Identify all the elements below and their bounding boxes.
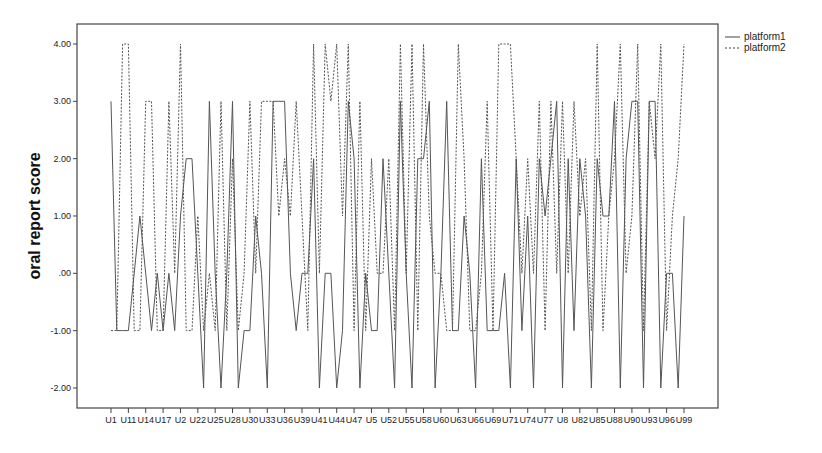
x-tick-label: U96	[658, 415, 675, 425]
x-tick-label: U99	[676, 415, 693, 425]
x-tick-label: U77	[537, 415, 554, 425]
x-tick-label: U1	[105, 415, 117, 425]
x-tick-label: U58	[415, 415, 432, 425]
x-tick-label: U63	[450, 415, 467, 425]
x-tick-label: U11	[120, 415, 136, 425]
x-tick-label: U2	[175, 415, 187, 425]
x-tick-label: U33	[259, 415, 276, 425]
y-tick-label: 2.00	[53, 154, 71, 164]
x-tick-label: U5	[366, 415, 378, 425]
x-tick-label: U39	[294, 415, 311, 425]
x-tick-label: U69	[485, 415, 502, 425]
x-tick-label: U82	[572, 415, 589, 425]
x-tick-label: U60	[433, 415, 450, 425]
y-tick-label: .00	[58, 268, 71, 278]
x-tick-label: U17	[155, 415, 172, 425]
x-tick-label: U30	[242, 415, 259, 425]
x-tick-label: U8	[557, 415, 569, 425]
y-tick-label: 1.00	[53, 211, 71, 221]
line-chart: 4.003.002.001.00.00-1.00-2.00 U1U11U14U1…	[0, 0, 822, 453]
x-tick-label: U71	[502, 415, 519, 425]
y-tick-label: -2.00	[50, 383, 71, 393]
x-tick-label: U14	[137, 415, 154, 425]
x-tick-label: U25	[207, 415, 224, 425]
x-tick-label: U88	[606, 415, 623, 425]
x-tick-label: U66	[467, 415, 484, 425]
x-tick-label: U44	[328, 415, 345, 425]
y-axis-title: oral report score	[26, 152, 43, 279]
x-tick-label: U28	[224, 415, 241, 425]
legend-label-platform1: platform1	[744, 31, 786, 42]
y-tick-label: -1.00	[50, 326, 71, 336]
y-tick-label: 4.00	[53, 39, 71, 49]
x-tick-label: U90	[624, 415, 641, 425]
x-tick-label: U52	[381, 415, 398, 425]
x-tick-label: U85	[589, 415, 606, 425]
x-tick-label: U74	[519, 415, 536, 425]
x-tick-label: U41	[311, 415, 328, 425]
x-tick-label: U22	[190, 415, 207, 425]
x-tick-label: U36	[276, 415, 293, 425]
x-tick-label: U93	[641, 415, 658, 425]
x-tick-label: U55	[398, 415, 415, 425]
legend-label-platform2: platform2	[744, 42, 786, 53]
x-tick-label: U47	[346, 415, 363, 425]
y-tick-label: 3.00	[53, 96, 71, 106]
